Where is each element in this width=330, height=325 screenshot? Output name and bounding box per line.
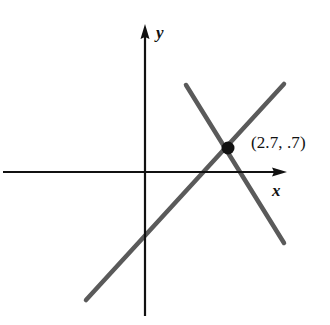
coordinate-plot <box>0 0 330 325</box>
x-axis-arrow-icon <box>272 168 287 177</box>
x-axis-label: x <box>272 182 281 199</box>
intersection-point <box>222 142 235 155</box>
falling-line <box>186 85 284 243</box>
y-axis-arrow-icon <box>141 24 150 39</box>
y-axis-label: y <box>156 24 164 41</box>
graph-figure: y x (2.7, .7) <box>0 0 330 325</box>
intersection-coordinate-label: (2.7, .7) <box>251 134 306 151</box>
